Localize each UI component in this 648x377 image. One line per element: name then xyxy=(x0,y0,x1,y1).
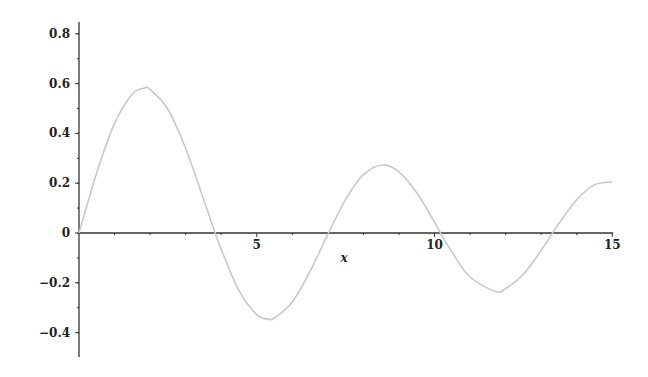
y-tick-label: 0.2 xyxy=(49,176,70,190)
x-tick-label: 5 xyxy=(253,238,261,252)
y-tick-label: −0.4 xyxy=(39,326,70,340)
data-curve xyxy=(79,87,612,320)
y-axis: 0.80.60.40.20−0.2−0.4 xyxy=(39,22,79,357)
y-tick-label: 0.8 xyxy=(49,27,70,41)
y-tick-label: 0.6 xyxy=(49,77,70,91)
x-tick-label: 15 xyxy=(604,238,621,252)
y-tick-label: −0.2 xyxy=(39,276,70,290)
line-chart: 0.80.60.40.20−0.2−0.4 51015 x xyxy=(0,0,648,377)
x-axis-title: x xyxy=(339,251,348,265)
y-tick-label: 0 xyxy=(62,226,70,240)
y-tick-label: 0.4 xyxy=(49,126,70,140)
x-tick-label: 10 xyxy=(426,238,443,252)
x-axis: 51015 xyxy=(79,233,621,252)
